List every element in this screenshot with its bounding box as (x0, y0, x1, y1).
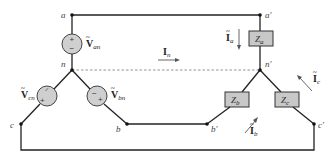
in-subscript: n (167, 51, 171, 59)
label-vbn: Vbn ~ (111, 84, 126, 102)
minus-sign: − (70, 44, 75, 53)
three-phase-circuit-diagram: + − Van ~ − + Vcn ~ − + Vbn ~ In Za (0, 0, 334, 159)
current-in-arrow: In (158, 46, 180, 62)
node-n (70, 68, 74, 72)
label-node-c: c (10, 120, 14, 130)
label-node-n: n (61, 59, 66, 69)
za-subscript: a (260, 38, 264, 46)
label-node-n-prime: n′ (265, 59, 273, 69)
source-van: + − (62, 34, 82, 54)
wire-zb-bprime (207, 107, 230, 124)
wire-n-vbn (72, 70, 90, 89)
node-b (125, 122, 129, 126)
node-a (70, 13, 74, 17)
wire-n-vcn (54, 70, 72, 89)
label-node-c-prime: c′ (318, 120, 325, 130)
svg-text:~: ~ (86, 33, 90, 41)
label-node-b-prime: b′ (211, 124, 219, 134)
node-b-prime (205, 122, 209, 126)
ib-subscript: b (254, 130, 258, 138)
svg-text:~: ~ (313, 68, 317, 76)
ic-subscript: c (317, 78, 321, 86)
wire-vcn-c (21, 104, 40, 124)
svg-text:~: ~ (21, 84, 25, 92)
vcn-subscript: cn (28, 94, 35, 102)
wire-nprime-zc (260, 70, 281, 92)
zb-subscript: b (236, 99, 240, 107)
wire-c-cprime (21, 124, 314, 150)
label-node-a: a (61, 10, 66, 20)
node-n-prime (258, 68, 262, 72)
node-c (19, 122, 23, 126)
current-ia-arrow: Ia ~ (226, 27, 241, 50)
svg-text:In: In (163, 46, 171, 59)
plus-sign: + (98, 95, 103, 104)
svg-text:~: ~ (111, 84, 115, 92)
minus-sign: − (92, 89, 97, 98)
van-subscript: an (93, 43, 101, 51)
ia-subscript: a (230, 37, 234, 45)
node-a-prime (258, 13, 262, 17)
label-node-b: b (116, 124, 121, 134)
label-van: Van ~ (86, 33, 101, 51)
current-ib-arrow: Ib ~ (245, 117, 258, 138)
svg-text:~: ~ (250, 120, 254, 128)
wire-vbn-b (104, 104, 127, 124)
source-vbn: − + (87, 86, 107, 106)
plus-sign: + (70, 35, 75, 44)
svg-text:~: ~ (226, 27, 230, 35)
node-c-prime (312, 122, 316, 126)
current-ic-arrow: Ic ~ (297, 68, 321, 91)
wire-nprime-zb (242, 70, 260, 92)
label-vcn: Vcn ~ (21, 84, 35, 102)
source-vcn: − + (37, 85, 57, 106)
label-node-a-prime: a′ (265, 10, 273, 20)
plus-sign: + (40, 96, 45, 105)
wire-zc-cprime (293, 107, 314, 124)
vbn-subscript: bn (118, 94, 126, 102)
